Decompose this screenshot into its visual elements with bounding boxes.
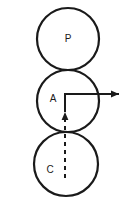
horizontal-arrow-head-icon bbox=[111, 91, 119, 98]
circle-c-label: C bbox=[46, 164, 53, 175]
circle-a bbox=[37, 70, 99, 132]
circle-a-label: A bbox=[50, 93, 57, 104]
circle-c bbox=[34, 132, 98, 196]
tangent-circles-diagram: P A C bbox=[0, 0, 124, 211]
diagram-canvas: P A C bbox=[0, 0, 124, 211]
circle-p-label: P bbox=[65, 33, 72, 44]
